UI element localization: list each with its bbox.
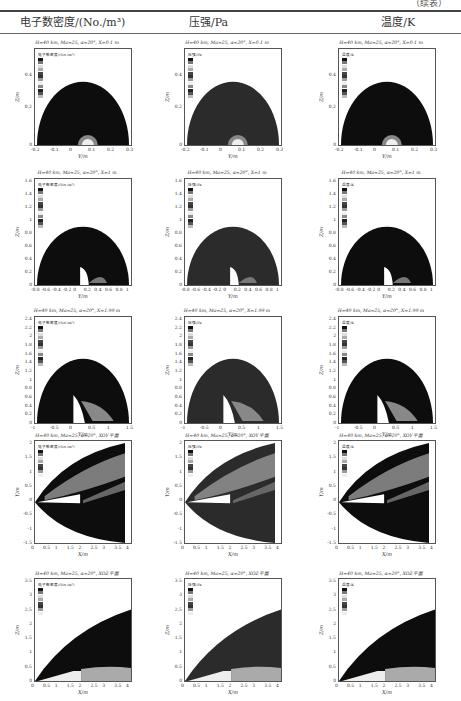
x-tick-label: 1 bbox=[276, 287, 279, 292]
y-tick-label: 2.5 bbox=[170, 607, 182, 612]
y-tick-label: 1 bbox=[324, 217, 336, 222]
legend-swatch bbox=[38, 363, 68, 366]
x-tick-label: -0.6 bbox=[42, 287, 51, 292]
y-tick-label: 1 bbox=[170, 217, 182, 222]
y-tick-label: 0.4 bbox=[170, 403, 182, 408]
y-tick-label: 1.5 bbox=[324, 454, 336, 459]
legend-title: 电子数密度/(No./m³) bbox=[38, 444, 68, 449]
y-tick-label: 0.4 bbox=[324, 403, 336, 408]
y-tick-label: 1.4 bbox=[20, 191, 32, 196]
figure-condition-title: H=40 km, Ma=25, α=20°, X=1 m bbox=[306, 170, 456, 175]
y-axis-label: Z/m bbox=[318, 92, 324, 102]
legend-swatch bbox=[188, 363, 218, 366]
x-tick-label: -0.2 bbox=[31, 147, 40, 152]
x-tick-label: 3.5 bbox=[114, 683, 121, 688]
x-tick-label: 0 bbox=[377, 287, 380, 292]
x-axis-label: X/m bbox=[78, 551, 88, 557]
legend-swatch bbox=[38, 474, 68, 477]
legend-title: 温度/K bbox=[342, 582, 372, 587]
x-tick-label: 1.5 bbox=[217, 545, 224, 550]
x-tick-label: 1 bbox=[359, 683, 362, 688]
y-tick-label: 0.2 bbox=[324, 269, 336, 274]
x-tick-label: 3 bbox=[102, 683, 105, 688]
y-tick-label: 1.2 bbox=[324, 368, 336, 373]
legend-swatch bbox=[188, 612, 218, 615]
contour-plot-area: 温度/K bbox=[338, 48, 436, 146]
colorbar-legend: 电子数密度/(No./m³) bbox=[38, 52, 68, 99]
x-tick-label: 0.5 bbox=[238, 425, 245, 430]
table-header: 电子数密度/(No./m³) 压强/Pa 温度/K bbox=[0, 13, 461, 33]
x-tick-label: 0.1 bbox=[88, 147, 95, 152]
y-tick-label: 1.4 bbox=[170, 191, 182, 196]
y-tick-label: 0.5 bbox=[324, 664, 336, 669]
legend-title: 压强/Pa bbox=[188, 444, 218, 449]
y-tick-label: 0.5 bbox=[20, 483, 32, 488]
figure-condition-title: H=40 km, Ma=25, α=20°, XOZ平面 bbox=[2, 570, 152, 576]
contour-plot-area: 温度/K bbox=[338, 178, 436, 286]
x-tick-label: 0.1 bbox=[238, 147, 245, 152]
x-tick-label: 3 bbox=[102, 545, 105, 550]
figure-condition-title: H=40 km, Ma=25, α=20°, X=0.1 m bbox=[306, 40, 456, 45]
x-tick-label: 3.5 bbox=[264, 683, 271, 688]
x-tick-label: -0.2 bbox=[63, 287, 72, 292]
legend-swatch bbox=[38, 225, 68, 228]
y-tick-label: -1 bbox=[20, 526, 32, 531]
figure-condition-title: H=40 km, Ma=25, α=20°, X=1.99 m bbox=[306, 308, 456, 313]
y-tick-label: -0.5 bbox=[324, 511, 336, 516]
x-tick-label: -0.4 bbox=[52, 287, 61, 292]
x-tick-label: 0.5 bbox=[88, 425, 95, 430]
y-tick-label: 0.8 bbox=[170, 230, 182, 235]
y-tick-label: 0.2 bbox=[20, 411, 32, 416]
column-header-pressure: 压强/Pa bbox=[146, 13, 296, 33]
y-axis-label: Z/m bbox=[14, 625, 20, 635]
y-tick-label: 0.4 bbox=[324, 256, 336, 261]
x-tick-label: 2.5 bbox=[90, 683, 97, 688]
contour-plot-area: 压强/Pa bbox=[184, 178, 282, 286]
y-tick-label: 3 bbox=[20, 592, 32, 597]
y-tick-label: 1.5 bbox=[170, 454, 182, 459]
y-tick-label: 1 bbox=[170, 469, 182, 474]
x-tick-label: 0 bbox=[373, 147, 376, 152]
x-tick-label: 0.4 bbox=[244, 287, 251, 292]
x-tick-label: 0.5 bbox=[347, 683, 354, 688]
x-tick-label: 0.5 bbox=[392, 425, 399, 430]
figure-condition-title: H=40 km, Ma=25, α=20°, XOY平面 bbox=[2, 432, 152, 438]
y-tick-label: 1.6 bbox=[324, 178, 336, 183]
y-tick-label: 0.5 bbox=[170, 664, 182, 669]
contour-plot-area: 温度/K bbox=[338, 440, 436, 544]
x-tick-label: 0.4 bbox=[94, 287, 101, 292]
colorbar-legend: 压强/Pa bbox=[188, 320, 218, 367]
y-tick-label: 0.8 bbox=[20, 385, 32, 390]
figure-condition-title: H=40 km, Ma=25, α=20°, XOY平面 bbox=[152, 432, 302, 438]
x-tick-label: 1.5 bbox=[67, 683, 74, 688]
x-tick-label: 1 bbox=[257, 425, 260, 430]
y-tick-label: 1.6 bbox=[170, 351, 182, 356]
x-tick-label: 2.5 bbox=[240, 683, 247, 688]
x-tick-label: 0.2 bbox=[388, 287, 395, 292]
y-tick-label: 1.8 bbox=[20, 342, 32, 347]
y-tick-label: 2 bbox=[324, 621, 336, 626]
colorbar-legend: 压强/Pa bbox=[188, 582, 218, 615]
x-tick-label: 0.6 bbox=[105, 287, 112, 292]
colorbar-legend: 电子数密度/(No./m³) bbox=[38, 582, 68, 615]
x-tick-label: 2 bbox=[383, 683, 386, 688]
x-tick-label: 0.8 bbox=[115, 287, 122, 292]
x-tick-label: 3.5 bbox=[418, 683, 425, 688]
y-tick-label: 0.2 bbox=[170, 411, 182, 416]
x-tick-label: -0.2 bbox=[213, 287, 222, 292]
x-axis-label: Y/m bbox=[382, 153, 392, 159]
x-tick-label: 0.8 bbox=[265, 287, 272, 292]
table-header-rule bbox=[0, 33, 461, 34]
y-tick-label: 2 bbox=[20, 621, 32, 626]
colorbar-legend: 温度/K bbox=[342, 320, 372, 367]
colorbar-legend: 压强/Pa bbox=[188, 52, 218, 99]
colorbar-legend: 电子数密度/(No./m³) bbox=[38, 320, 68, 367]
y-axis-label: Z/m bbox=[318, 625, 324, 635]
x-tick-label: -0.4 bbox=[356, 287, 365, 292]
x-tick-label: -0.1 bbox=[200, 147, 209, 152]
x-tick-label: -0.2 bbox=[335, 147, 344, 152]
y-tick-label: 0.2 bbox=[324, 411, 336, 416]
legend-swatch bbox=[342, 612, 372, 615]
y-tick-label: 1.8 bbox=[324, 342, 336, 347]
contour-plot-area: 压强/Pa bbox=[184, 316, 282, 424]
